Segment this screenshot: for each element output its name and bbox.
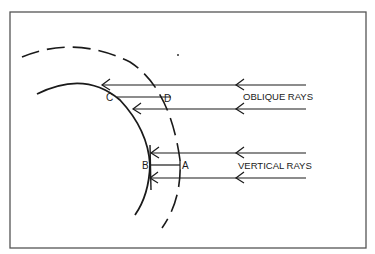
oblique-rays-label: OBLIQUE RAYS [243,91,313,102]
point-label-c: C [106,92,113,103]
point-label-a: A [182,160,189,171]
outer-dashed-arc [22,47,180,228]
point-label-d: D [164,93,171,104]
point-label-b: B [142,160,149,171]
inner-solid-arc [37,83,150,215]
speck [177,54,179,56]
b-tangent-segment [150,145,151,190]
ray-diagram: C D B A OBLIQUE RAYS VERTICAL RAYS [0,0,375,254]
vertical-rays-label: VERTICAL RAYS [238,160,312,171]
